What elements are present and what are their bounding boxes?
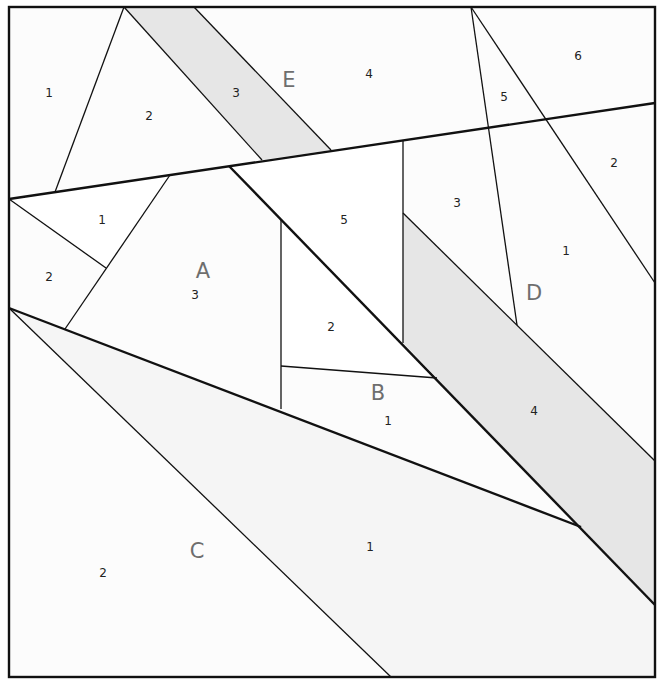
label-b1: 1: [384, 414, 392, 428]
section-label-b: B: [371, 381, 385, 405]
pattern-diagram: 1 2 3 4 5 6 2 3 1 4 1 2 3 5 2 1 1 2 E D …: [0, 0, 662, 693]
label-d5: 5: [500, 90, 508, 104]
section-label-c: C: [190, 539, 205, 563]
label-e2: 2: [145, 109, 153, 123]
label-b5: 5: [340, 213, 348, 227]
label-c1: 1: [366, 540, 374, 554]
label-a1: 1: [98, 213, 106, 227]
label-a2: 2: [45, 270, 53, 284]
label-d6: 6: [574, 49, 582, 63]
section-label-a: A: [196, 259, 211, 283]
label-d3: 3: [453, 196, 461, 210]
label-b2: 2: [327, 320, 335, 334]
section-label-e: E: [282, 68, 295, 92]
label-a3: 3: [191, 288, 199, 302]
label-e4: 4: [365, 67, 373, 81]
label-d1: 1: [562, 244, 570, 258]
label-e1: 1: [45, 86, 53, 100]
label-e3: 3: [232, 86, 240, 100]
label-d4: 4: [530, 404, 538, 418]
section-label-d: D: [526, 281, 542, 305]
label-c2: 2: [99, 566, 107, 580]
label-d2: 2: [610, 156, 618, 170]
